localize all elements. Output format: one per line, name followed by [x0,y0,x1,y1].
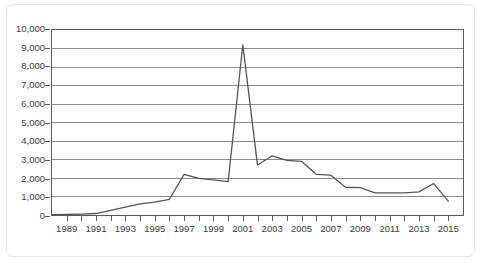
y-tickmark [45,141,50,142]
x-tickmark [346,216,347,221]
x-tickmark [228,216,229,221]
x-tickmark [96,216,97,221]
x-tickmark [67,216,68,221]
x-tick-label: 2011 [379,223,399,235]
y-tickmark [45,179,50,180]
y-tickmark [45,197,50,198]
y-tickmark [45,104,50,105]
plot-area [51,29,464,216]
x-tick-label: 1993 [115,223,136,235]
x-tick-label: 2015 [438,223,459,235]
y-tickmark [45,29,50,30]
x-tick-label: 1999 [203,223,224,235]
x-tick-label: 1995 [144,223,165,235]
x-axis-tickmarks [51,216,464,222]
x-tick-label: 2013 [408,223,429,235]
series-polyline [52,45,448,215]
x-tick-label: 2001 [232,223,253,235]
x-tickmark [81,216,82,221]
y-tickmark [45,123,50,124]
x-tickmark [448,216,449,221]
x-tickmark [287,216,288,221]
x-tick-label: 1991 [85,223,106,235]
x-tickmark [375,216,376,221]
x-tickmark [111,216,112,221]
y-tickmark [45,216,50,217]
x-tickmark [272,216,273,221]
x-tick-label: 2007 [320,223,341,235]
x-tick-label: 2003 [262,223,283,235]
x-tick-label: 1997 [174,223,195,235]
x-tickmark [316,216,317,221]
y-tickmark [45,66,50,67]
x-tickmark [184,216,185,221]
x-tickmark [390,216,391,221]
y-tickmark [45,48,50,49]
x-tickmark [199,216,200,221]
x-tickmark [360,216,361,221]
x-tick-label: 2009 [350,223,371,235]
x-tickmark [258,216,259,221]
chart-figure: 10,000 9,000 8,000 7,000 6,000 5,000 4,0… [0,0,481,263]
x-tickmark [331,216,332,221]
x-tickmark [434,216,435,221]
x-tickmark [419,216,420,221]
x-tickmark [302,216,303,221]
x-tickmark [169,216,170,221]
x-tickmark [125,216,126,221]
y-tickmark [45,160,50,161]
y-tickmark [45,85,50,86]
x-tickmark [243,216,244,221]
x-tick-label: 2005 [291,223,312,235]
x-tickmark [140,216,141,221]
x-tick-label: 1989 [56,223,77,235]
y-axis-tickmarks [0,29,51,216]
data-series-line [52,30,463,215]
x-tickmark [213,216,214,221]
x-tickmark [155,216,156,221]
x-axis-labels: 1989199119931995199719992001200320052007… [51,223,464,239]
x-tickmark [404,216,405,221]
